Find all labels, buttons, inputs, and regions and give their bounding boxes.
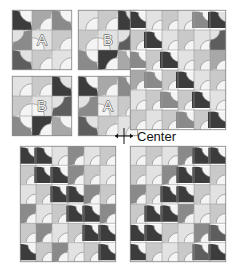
truchet-tile bbox=[20, 165, 36, 184]
truchet-tile bbox=[100, 204, 116, 223]
truchet-tile bbox=[208, 147, 227, 163]
truchet-tile bbox=[210, 70, 227, 90]
tile-block-small-a-top-left: A bbox=[12, 10, 72, 70]
truchet-tile bbox=[178, 243, 194, 262]
truchet-tile bbox=[78, 96, 98, 116]
truchet-tile bbox=[210, 50, 227, 70]
truchet-tile bbox=[162, 165, 178, 184]
truchet-tile bbox=[84, 243, 100, 262]
truchet-tile bbox=[36, 204, 52, 223]
truchet-tile bbox=[12, 50, 32, 70]
truchet-tile bbox=[178, 204, 194, 223]
truchet-tile bbox=[130, 185, 146, 204]
truchet-tile bbox=[12, 96, 32, 116]
truchet-tile bbox=[52, 10, 72, 30]
truchet-tile bbox=[12, 76, 32, 96]
truchet-tile bbox=[194, 185, 210, 204]
truchet-tile bbox=[130, 146, 146, 165]
truchet-tile bbox=[208, 11, 228, 28]
truchet-tile bbox=[68, 165, 84, 184]
truchet-tile bbox=[144, 31, 164, 48]
truchet-tile bbox=[98, 116, 118, 136]
truchet-tile bbox=[32, 50, 52, 70]
truchet-tile bbox=[78, 116, 98, 136]
truchet-tile bbox=[194, 30, 211, 50]
truchet-tile bbox=[146, 146, 162, 165]
truchet-tile bbox=[144, 71, 164, 88]
truchet-tile bbox=[36, 185, 52, 204]
truchet-tile bbox=[128, 51, 148, 68]
truchet-tile bbox=[146, 10, 163, 30]
truchet-tile bbox=[146, 185, 162, 204]
tile-block-small-b-top-right: B bbox=[78, 10, 138, 70]
truchet-tile bbox=[144, 225, 163, 241]
truchet-tile bbox=[68, 146, 84, 165]
tiling-canvas: ABBACenter bbox=[0, 0, 236, 270]
truchet-tile bbox=[84, 165, 100, 184]
truchet-tile bbox=[162, 10, 179, 30]
block-label: A bbox=[37, 31, 47, 48]
truchet-tile bbox=[130, 204, 146, 223]
truchet-tile bbox=[178, 146, 194, 165]
truchet-tile bbox=[100, 146, 116, 165]
block-label: B bbox=[37, 97, 47, 114]
truchet-tile bbox=[178, 30, 195, 50]
truchet-tile bbox=[160, 51, 180, 68]
truchet-tile bbox=[209, 30, 226, 50]
tiling-figure: ABBACenter bbox=[0, 0, 236, 270]
truchet-tile bbox=[162, 30, 179, 50]
truchet-tile bbox=[128, 244, 147, 260]
truchet-tile bbox=[100, 185, 116, 204]
truchet-tile bbox=[78, 30, 98, 50]
truchet-tile bbox=[98, 10, 118, 30]
tile-block-large-bottom-left bbox=[18, 146, 117, 262]
truchet-tile bbox=[36, 243, 52, 262]
truchet-tile bbox=[20, 185, 36, 204]
truchet-tile bbox=[146, 243, 162, 262]
truchet-tile bbox=[84, 146, 100, 165]
truchet-tile bbox=[52, 146, 68, 165]
tile-block-small-a-bottom-right: A bbox=[78, 76, 138, 136]
truchet-tile bbox=[18, 244, 37, 260]
tile-block-large-top-right bbox=[128, 10, 228, 130]
truchet-tile bbox=[52, 50, 72, 70]
truchet-tile bbox=[100, 165, 116, 184]
truchet-tile bbox=[52, 76, 72, 96]
truchet-tile bbox=[84, 185, 100, 204]
truchet-tile bbox=[194, 70, 211, 90]
truchet-tile bbox=[128, 11, 148, 28]
truchet-tile bbox=[130, 165, 146, 184]
truchet-tile bbox=[192, 91, 212, 108]
truchet-tile bbox=[98, 76, 118, 96]
truchet-tile bbox=[192, 167, 211, 183]
truchet-tile bbox=[50, 167, 69, 183]
truchet-tile bbox=[208, 244, 227, 260]
truchet-tile bbox=[130, 90, 147, 110]
truchet-tile bbox=[146, 165, 162, 184]
truchet-tile bbox=[68, 223, 84, 242]
truchet-tile bbox=[194, 223, 210, 242]
truchet-tile bbox=[52, 116, 72, 136]
truchet-tile bbox=[178, 223, 194, 242]
truchet-tile bbox=[146, 110, 163, 130]
tile-block-small-b-bottom-left: B bbox=[12, 76, 72, 136]
truchet-tile bbox=[208, 111, 228, 128]
truchet-tile bbox=[66, 186, 85, 202]
truchet-tile bbox=[130, 110, 147, 130]
truchet-tile bbox=[176, 186, 195, 202]
truchet-tile bbox=[52, 223, 68, 242]
truchet-tile bbox=[52, 204, 68, 223]
truchet-tile bbox=[176, 111, 196, 128]
truchet-tile bbox=[162, 243, 178, 262]
truchet-tile bbox=[36, 223, 52, 242]
truchet-tile bbox=[52, 96, 72, 116]
truchet-tile bbox=[178, 50, 195, 70]
center-label: Center bbox=[137, 129, 177, 144]
truchet-tile bbox=[194, 50, 211, 70]
truchet-tile bbox=[210, 185, 226, 204]
truchet-tile bbox=[78, 50, 98, 70]
truchet-tile bbox=[78, 76, 98, 96]
truchet-tile bbox=[210, 204, 226, 223]
truchet-tile bbox=[98, 50, 118, 70]
truchet-tile bbox=[82, 205, 101, 221]
